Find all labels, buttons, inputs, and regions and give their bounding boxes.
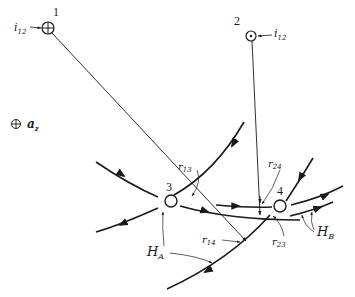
- axis-marker: az: [12, 117, 40, 133]
- r14-label: r14: [202, 234, 216, 247]
- wire-4-label: 4: [277, 184, 283, 198]
- current-label-1: i12: [14, 21, 27, 36]
- field-line-a-lower-right: [180, 206, 300, 220]
- wire-1-label: 1: [53, 5, 59, 19]
- open-circle-icon: [274, 200, 286, 212]
- r24-r23-line: [252, 41, 260, 215]
- wire-2-label: 2: [234, 14, 240, 28]
- current-label-2: i12: [274, 27, 287, 42]
- r13-label: r13: [178, 161, 192, 174]
- field-line-b-upper-right: [291, 186, 343, 205]
- field-line-a-upper-left: [96, 162, 158, 197]
- open-circle-icon: [165, 195, 177, 207]
- r23-label: r23: [272, 236, 286, 249]
- wire-2: 2 i12: [234, 14, 287, 42]
- magnetic-field-diagram: 1 i12 2 i12 az 3: [0, 0, 355, 297]
- field-line-a-lower-left: [96, 208, 158, 232]
- field-line-a-outer: [167, 215, 270, 289]
- field-line-b-left: [216, 205, 272, 207]
- wire-1: 1 i12: [14, 5, 59, 36]
- wire-4: 4: [274, 184, 286, 212]
- r14-line: [52, 33, 246, 241]
- ha-label: HA: [146, 244, 164, 261]
- axis-label: az: [27, 117, 40, 133]
- r24-label: r24: [268, 158, 282, 171]
- field-line-a-upper-right: [174, 122, 244, 195]
- wire-3-label: 3: [166, 180, 172, 194]
- hb-label: HB: [316, 224, 334, 241]
